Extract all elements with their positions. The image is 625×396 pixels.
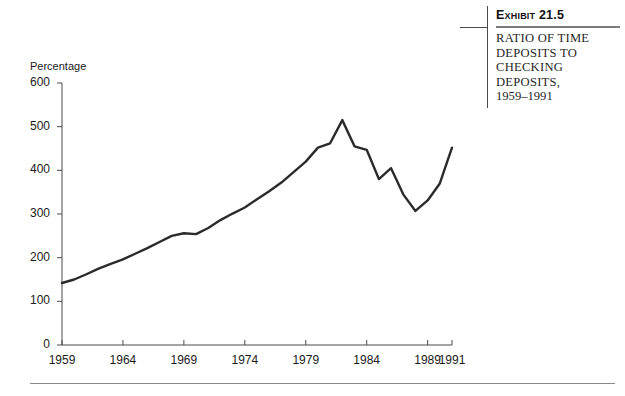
y-axis-ticks <box>57 83 62 345</box>
exhibit-caption-line: DEPOSITS TO <box>496 46 622 61</box>
x-axis-tick-label: 1984 <box>343 353 391 367</box>
y-axis-tick-label: 300 <box>14 206 50 220</box>
exhibit-caption-line: RATIO OF TIME <box>496 31 622 46</box>
y-axis-tick-label: 500 <box>14 119 50 133</box>
data-series-line <box>62 120 452 283</box>
exhibit-caption-years: 1959–1991 <box>496 89 622 104</box>
y-axis-tick-label: 200 <box>14 250 50 264</box>
exhibit-caption: RATIO OF TIMEDEPOSITS TOCHECKINGDEPOSITS… <box>496 31 622 104</box>
x-axis-tick-label: 1969 <box>160 353 208 367</box>
x-axis-tick-label: 1964 <box>99 353 147 367</box>
x-axis-tick-label: 1974 <box>221 353 269 367</box>
exhibit-header: Exhibit 21.5 RATIO OF TIMEDEPOSITS TOCHE… <box>487 0 625 110</box>
exhibit-caption-line: CHECKING <box>496 60 622 75</box>
x-axis-tick-label: 1991 <box>428 353 476 367</box>
page-bottom-rule <box>30 383 615 384</box>
line-chart-plot <box>0 0 470 375</box>
y-axis-tick-label: 100 <box>14 293 50 307</box>
y-axis-tick-label: 0 <box>14 337 50 351</box>
x-axis-tick-label: 1959 <box>38 353 86 367</box>
y-axis-tick-label: 600 <box>14 75 50 89</box>
exhibit-horizontal-rule <box>460 27 487 28</box>
exhibit-vertical-rule <box>487 6 488 108</box>
y-axis-tick-label: 400 <box>14 162 50 176</box>
x-axis-tick-label: 1979 <box>282 353 330 367</box>
exhibit-caption-line: DEPOSITS, <box>496 75 622 90</box>
exhibit-label: Exhibit 21.5 <box>496 8 564 22</box>
exhibit-title-underline <box>496 26 620 28</box>
x-axis-ticks <box>62 340 452 345</box>
chart-container: Percentage 6005004003002001000 195919641… <box>0 0 470 375</box>
